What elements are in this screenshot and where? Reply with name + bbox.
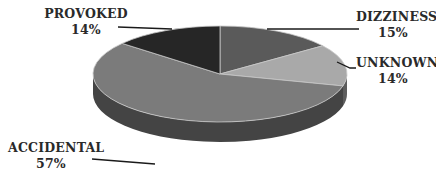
slice-label-provoked: PROVOKED 14% xyxy=(44,6,128,38)
slice-label-name: UNKNOWN xyxy=(356,55,430,71)
slice-label-name: ACCIDENTAL xyxy=(8,140,94,156)
pie-top-face xyxy=(93,26,347,122)
leader-line-accidental xyxy=(92,159,155,164)
slice-label-unknown: UNKNOWN 14% xyxy=(356,55,430,87)
slice-label-percent: 14% xyxy=(44,22,128,38)
slice-label-accidental: ACCIDENTAL 57% xyxy=(8,140,94,172)
slice-label-percent: 15% xyxy=(356,25,430,41)
slice-label-dizziness: DIZZINESS 15% xyxy=(356,9,430,41)
slice-label-percent: 57% xyxy=(8,156,94,172)
slice-label-name: DIZZINESS xyxy=(356,9,430,25)
slice-label-percent: 14% xyxy=(356,71,430,87)
slice-label-name: PROVOKED xyxy=(44,6,128,22)
